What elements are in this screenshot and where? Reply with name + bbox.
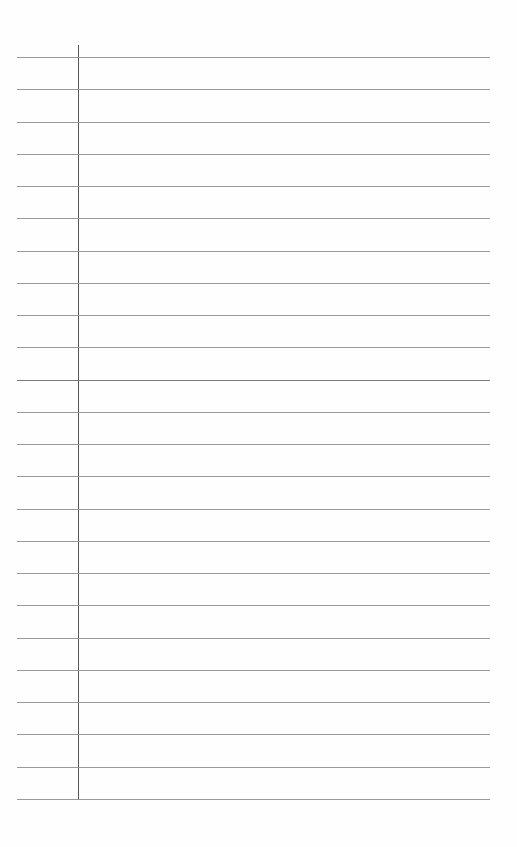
ruled-line [17, 670, 490, 671]
ruled-line [17, 605, 490, 606]
ruled-line [17, 380, 490, 381]
ruled-line [17, 122, 490, 123]
ruled-line [17, 186, 490, 187]
ruled-line [17, 251, 490, 252]
ruled-line [17, 476, 490, 477]
ruled-line [17, 347, 490, 348]
ruled-line [17, 89, 490, 90]
ruled-line [17, 57, 490, 58]
ruled-line [17, 218, 490, 219]
ruled-line [17, 541, 490, 542]
ruled-line [17, 573, 490, 574]
ruled-line [17, 638, 490, 639]
ruled-line [17, 412, 490, 413]
ruled-line [17, 509, 490, 510]
ruled-line [17, 734, 490, 735]
ruled-line [17, 702, 490, 703]
ruled-line [17, 154, 490, 155]
ruled-line [17, 444, 490, 445]
ruled-line [17, 799, 490, 800]
ruled-line [17, 283, 490, 284]
margin-line [78, 45, 79, 800]
ruled-line [17, 767, 490, 768]
ruled-line [17, 315, 490, 316]
lined-paper-page [0, 0, 517, 847]
